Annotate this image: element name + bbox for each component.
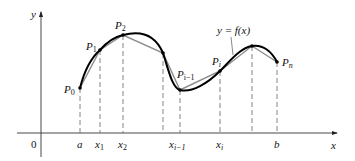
tick-labels: a x1 x2 xi−1 xi b [77,138,280,152]
tick-a: a [77,138,83,150]
leader-line [231,37,233,55]
y-axis-label: y [30,8,36,20]
secant-polygon [80,35,277,90]
label-p2: P2 [114,19,126,33]
arc-length-diagram: x y 0 P0 P1 P2 Pi−1 Pi Pn y = [0,0,355,161]
label-p-i: Pi [211,55,221,69]
label-p1: P1 [85,40,97,54]
tick-x2: x2 [117,138,127,152]
label-p-i-minus-1: Pi−1 [176,68,194,82]
tick-x-i-minus-1: xi−1 [168,138,186,152]
function-curve [80,33,277,90]
tick-b: b [274,138,280,150]
curve-label: y = f(x) [216,24,250,37]
x-axis-label: x [330,139,336,151]
origin-label: 0 [31,138,37,150]
label-p0: P0 [63,83,75,97]
tick-x-i: xi [215,138,223,152]
label-p-n: Pn [281,56,293,70]
tick-x1: x1 [94,138,104,152]
curve-annotation: y = f(x) [216,24,250,55]
